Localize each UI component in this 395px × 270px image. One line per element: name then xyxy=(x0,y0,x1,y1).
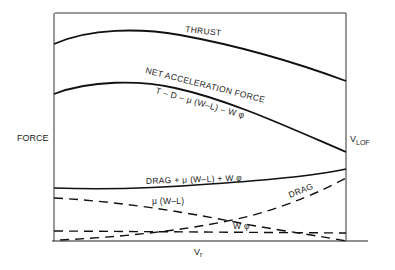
vlof-label: VLOF xyxy=(350,134,370,146)
net-acceleration-curve xyxy=(54,83,346,152)
friction-label: μ (W–L) xyxy=(152,196,185,206)
slope-force-line xyxy=(54,231,346,233)
total-resistance-label: DRAG + μ (W–L) + W φ xyxy=(146,173,243,186)
thrust-curve xyxy=(54,31,346,81)
vr-label: Vr xyxy=(194,247,203,258)
thrust-label: THRUST xyxy=(185,24,222,38)
friction-curve xyxy=(54,198,346,241)
slope-force-label: W φ xyxy=(233,221,250,231)
drag-label: DRAG xyxy=(287,181,315,200)
takeoff-forces-diagram: THRUST NET ACCELERATION FORCE T – D – μ … xyxy=(0,0,395,270)
y-axis-label: FORCE xyxy=(17,133,49,143)
